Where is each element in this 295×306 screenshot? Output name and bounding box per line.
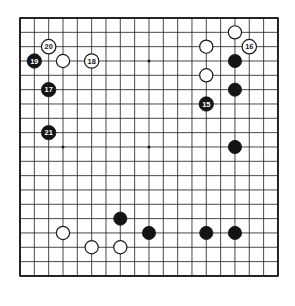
stone-white[interactable] [228, 26, 241, 39]
black-stone[interactable] [228, 140, 241, 153]
black-stone[interactable] [114, 212, 127, 225]
stone-white[interactable] [56, 54, 69, 67]
black-stone[interactable] [142, 226, 155, 239]
stone-black-numbered[interactable]: 17 [41, 82, 55, 96]
stone-move-number: 19 [30, 57, 38, 66]
stone-black-numbered[interactable]: 21 [41, 125, 55, 139]
white-stone[interactable] [200, 40, 213, 53]
stone-black-numbered[interactable]: 15 [199, 97, 213, 111]
stone-black[interactable] [142, 226, 155, 239]
stone-black[interactable] [200, 226, 213, 239]
stone-white[interactable] [85, 241, 98, 254]
stone-move-number: 20 [45, 42, 53, 51]
stone-black[interactable] [114, 212, 127, 225]
stone-move-number: 18 [88, 57, 96, 66]
star-point [61, 145, 64, 148]
go-board[interactable]: 16201918171521 [0, 0, 295, 306]
stone-white[interactable] [200, 40, 213, 53]
white-stone[interactable] [200, 69, 213, 82]
stone-black[interactable] [228, 140, 241, 153]
stone-white-numbered[interactable]: 20 [41, 39, 55, 53]
stone-black[interactable] [228, 226, 241, 239]
stone-white-numbered[interactable]: 16 [242, 39, 256, 53]
stone-black[interactable] [228, 54, 241, 67]
stones-layer[interactable]: 16201918171521 [27, 26, 256, 254]
stone-move-number: 21 [45, 128, 53, 137]
stone-move-number: 15 [202, 100, 210, 109]
go-diagram-root: 16201918171521 [0, 0, 295, 306]
white-stone[interactable] [56, 226, 69, 239]
white-stone[interactable] [114, 241, 127, 254]
white-stone[interactable] [85, 241, 98, 254]
black-stone[interactable] [228, 83, 241, 96]
stone-black-numbered[interactable]: 19 [27, 54, 41, 68]
stone-white[interactable] [200, 69, 213, 82]
stone-black[interactable] [228, 83, 241, 96]
star-point [147, 59, 150, 62]
stone-move-number: 16 [245, 42, 253, 51]
black-stone[interactable] [200, 226, 213, 239]
go-board-canvas[interactable]: 16201918171521 [0, 0, 295, 306]
white-stone[interactable] [56, 54, 69, 67]
stone-white[interactable] [56, 226, 69, 239]
black-stone[interactable] [228, 226, 241, 239]
stone-move-number: 17 [45, 85, 53, 94]
stone-white[interactable] [114, 241, 127, 254]
stone-white-numbered[interactable]: 18 [84, 54, 98, 68]
white-stone[interactable] [228, 26, 241, 39]
black-stone[interactable] [228, 54, 241, 67]
star-point [147, 145, 150, 148]
